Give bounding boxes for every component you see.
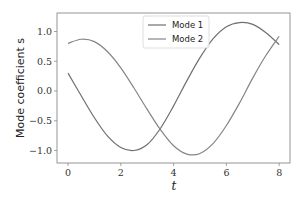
x-tick-label: 2 bbox=[118, 167, 124, 178]
x-tick-label: 6 bbox=[223, 167, 229, 178]
x-tick-label: 0 bbox=[65, 167, 71, 178]
legend-label-mode-2: Mode 2 bbox=[172, 34, 203, 44]
y-axis-ticks: −1.0−0.50.00.51.0 bbox=[29, 26, 57, 156]
x-axis-ticks: 02468 bbox=[65, 163, 282, 178]
y-tick-label: −0.5 bbox=[29, 115, 52, 126]
y-tick-label: 0.0 bbox=[37, 85, 52, 96]
line-chart: −1.0−0.50.00.51.0 02468 Mode coefficient… bbox=[0, 0, 304, 202]
legend: Mode 1 Mode 2 bbox=[143, 16, 209, 48]
y-axis-label: Mode coefficient s bbox=[14, 38, 27, 138]
y-tick-label: 1.0 bbox=[37, 26, 52, 37]
y-tick-label: −1.0 bbox=[29, 145, 52, 156]
x-axis-label: t bbox=[172, 179, 177, 193]
legend-label-mode-1: Mode 1 bbox=[172, 20, 203, 30]
x-tick-label: 8 bbox=[276, 167, 282, 178]
x-tick-label: 4 bbox=[171, 167, 177, 178]
y-tick-label: 0.5 bbox=[37, 56, 52, 67]
